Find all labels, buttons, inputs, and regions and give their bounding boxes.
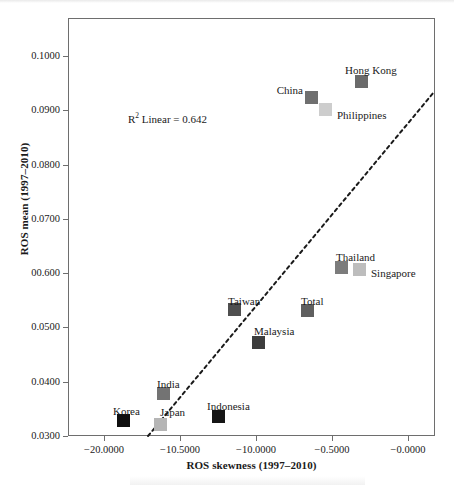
y-tick-label: 0.0400 — [4, 377, 60, 387]
y-tick-mark — [63, 382, 68, 383]
y-tick-label: 00.600 — [4, 268, 60, 278]
y-tick-label: 0.0500 — [4, 322, 60, 332]
x-tick-label: −10.0000 — [216, 445, 296, 455]
y-tick-label: 0.1000 — [4, 51, 60, 61]
data-point-marker — [252, 336, 265, 349]
y-tick-mark — [63, 273, 68, 274]
x-tick-mark — [332, 436, 333, 441]
data-point-label: Japan — [160, 407, 185, 418]
scatter-plot-figure: ROS mean (1997–2010) ROS skewness (1997–… — [0, 0, 454, 485]
y-tick-mark — [63, 56, 68, 57]
data-point-marker — [353, 263, 366, 276]
y-tick-mark — [63, 165, 68, 166]
data-point-label: Malaysia — [254, 326, 294, 337]
data-point-label: Hong Kong — [345, 65, 397, 76]
x-tick-mark — [104, 436, 105, 441]
x-tick-label: −20.0000 — [64, 445, 144, 455]
y-tick-label: 0.0900 — [4, 105, 60, 115]
x-tick-mark — [256, 436, 257, 441]
data-point-marker — [154, 418, 167, 431]
data-point-marker — [355, 75, 368, 88]
plot-area-frame — [68, 18, 435, 436]
data-point-marker — [305, 91, 318, 104]
x-tick-mark — [408, 436, 409, 441]
data-point-marker — [319, 103, 332, 116]
data-point-label: India — [157, 379, 180, 390]
x-tick-mark — [180, 436, 181, 441]
r-squared-value: Linear = 0.642 — [139, 113, 207, 125]
y-tick-mark — [63, 436, 68, 437]
data-point-label: Taiwan — [228, 296, 260, 307]
y-tick-mark — [63, 327, 68, 328]
y-tick-label: 0.0300 — [4, 431, 60, 441]
data-point-label: Total — [301, 296, 323, 307]
x-tick-label: −0.0000 — [368, 445, 448, 455]
data-point-label: Thailand — [336, 252, 375, 263]
data-point-label: Philippines — [337, 110, 387, 121]
x-tick-label: −0.5000 — [292, 445, 372, 455]
data-point-label: Indonesia — [207, 401, 250, 412]
y-tick-label: 0.0700 — [4, 214, 60, 224]
x-axis-title: ROS skewness (1997–2010) — [68, 459, 435, 471]
y-tick-label: 0.0800 — [4, 160, 60, 170]
data-point-label: Singapore — [371, 268, 416, 279]
y-tick-mark — [63, 219, 68, 220]
scan-artifact-top — [0, 0, 454, 3]
y-tick-mark — [63, 110, 68, 111]
scan-artifact-bottom — [130, 476, 365, 485]
x-tick-label: −10.5000 — [140, 445, 220, 455]
data-point-label: China — [0, 85, 303, 96]
r-squared-annotation: R2 Linear = 0.642 — [128, 113, 207, 125]
data-point-label: Korea — [113, 406, 140, 417]
